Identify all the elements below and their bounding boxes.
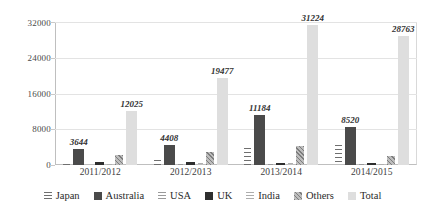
legend-label: Australia (106, 190, 145, 201)
legend-swatch-india-icon (246, 192, 254, 200)
x-axis-tick-label: 2011/2012 (55, 167, 146, 183)
bar-uk[interactable] (186, 162, 195, 165)
bar-value-label: 11184 (249, 103, 271, 113)
legend-swatch-others-icon (294, 192, 302, 200)
bar-india[interactable] (198, 163, 203, 165)
bar-value-label: 19477 (211, 66, 234, 76)
y-axis-tick-label: 16000 (5, 89, 51, 99)
bar-usa[interactable] (359, 164, 364, 165)
bar-uk[interactable] (367, 163, 376, 165)
legend-item-others[interactable]: Others (294, 190, 334, 201)
x-axis: 2011/2012 2012/2013 2013/2014 2014/2015 (55, 167, 417, 183)
bar-japan[interactable] (244, 148, 251, 165)
bar-japan[interactable] (154, 160, 161, 165)
chart-legend: Japan Australia USA UK India Others Tota… (0, 190, 425, 201)
bar-india[interactable] (288, 163, 293, 165)
bar-group: 4408 19477 (146, 22, 237, 165)
bar-value-label: 28763 (392, 24, 415, 34)
bar-japan[interactable] (63, 164, 70, 165)
legend-item-uk[interactable]: UK (205, 190, 232, 201)
y-axis-tick-label: 32000 (5, 18, 51, 28)
legend-item-usa[interactable]: USA (158, 190, 191, 201)
legend-swatch-total-icon (348, 192, 356, 200)
bar-usa[interactable] (178, 164, 183, 165)
bar-value-label: 3644 (70, 137, 88, 147)
bar-group: 3644 12025 (55, 22, 146, 165)
bar-value-label: 4408 (160, 133, 178, 143)
y-axis-tick-mark (50, 165, 55, 166)
bar-india[interactable] (379, 164, 384, 165)
x-axis-tick-label: 2014/2015 (327, 167, 418, 183)
legend-label: UK (217, 190, 232, 201)
bar-total[interactable]: 12025 (126, 111, 137, 165)
legend-label: India (258, 190, 280, 201)
bar-groups: 3644 12025 4408 (55, 22, 417, 165)
bar-usa[interactable] (268, 164, 273, 165)
y-axis-tick-label: 0 (5, 160, 51, 170)
x-axis-tick-label: 2013/2014 (236, 167, 327, 183)
bar-australia[interactable]: 3644 (73, 149, 84, 165)
bar-others[interactable] (206, 152, 214, 165)
bar-uk[interactable] (276, 163, 285, 165)
bar-value-label: 31224 (302, 13, 325, 23)
legend-label: USA (170, 190, 191, 201)
legend-item-india[interactable]: India (246, 190, 280, 201)
legend-label: Japan (56, 190, 80, 201)
legend-item-japan[interactable]: Japan (44, 190, 80, 201)
legend-swatch-uk-icon (205, 192, 213, 200)
bar-chart: 32000 24000 16000 8000 0 3644 (0, 0, 425, 221)
legend-swatch-japan-icon (44, 192, 52, 199)
bar-total[interactable]: 28763 (398, 36, 409, 165)
bar-total[interactable]: 19477 (217, 78, 228, 165)
bar-total[interactable]: 31224 (307, 25, 318, 165)
bar-others[interactable] (296, 146, 304, 165)
legend-label: Total (360, 190, 381, 201)
y-axis-tick-label: 8000 (5, 124, 51, 134)
bar-others[interactable] (387, 156, 395, 165)
bar-uk[interactable] (95, 162, 104, 165)
legend-swatch-australia-icon (94, 192, 102, 200)
bar-others[interactable] (115, 155, 123, 165)
legend-item-australia[interactable]: Australia (94, 190, 145, 201)
bar-group: 11184 31224 (236, 22, 327, 165)
bar-value-label: 8520 (341, 115, 359, 125)
bar-india[interactable] (107, 164, 112, 165)
bar-australia[interactable]: 11184 (254, 115, 265, 165)
legend-item-total[interactable]: Total (348, 190, 381, 201)
plot-area: 3644 12025 4408 (55, 22, 417, 165)
bar-value-label: 12025 (121, 99, 144, 109)
bar-australia[interactable]: 4408 (164, 145, 175, 165)
x-axis-tick-label: 2012/2013 (146, 167, 237, 183)
bar-group: 8520 28763 (327, 22, 418, 165)
bar-australia[interactable]: 8520 (345, 127, 356, 165)
bar-japan[interactable] (335, 145, 342, 165)
y-axis-tick-label: 24000 (5, 53, 51, 63)
legend-swatch-usa-icon (158, 192, 166, 200)
legend-label: Others (306, 190, 334, 201)
